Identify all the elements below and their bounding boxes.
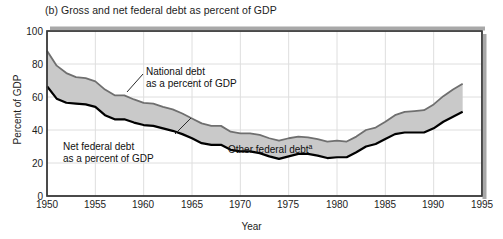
annotation-other-federal-debt-label: Other federal debt xyxy=(228,144,309,155)
annotation-net-federal-debt-line1: Net federal debt xyxy=(63,141,154,153)
annotation-net-federal-debt: Net federal debt as a percent of GDP xyxy=(63,141,154,164)
annotation-national-debt: National debt as a percent of GDP xyxy=(146,66,237,89)
annotation-national-debt-line1: National debt xyxy=(146,66,237,78)
figure-gross-and-net-federal-debt: (b) Gross and net federal debt as percen… xyxy=(0,0,503,239)
annotation-other-federal-debt: Other federal debta xyxy=(228,144,313,156)
annotation-net-federal-debt-line2: as a percent of GDP xyxy=(63,153,154,165)
annotation-national-debt-line2: as a percent of GDP xyxy=(146,78,237,90)
annotation-other-federal-debt-superscript: a xyxy=(309,143,313,150)
plot-area xyxy=(0,0,503,239)
